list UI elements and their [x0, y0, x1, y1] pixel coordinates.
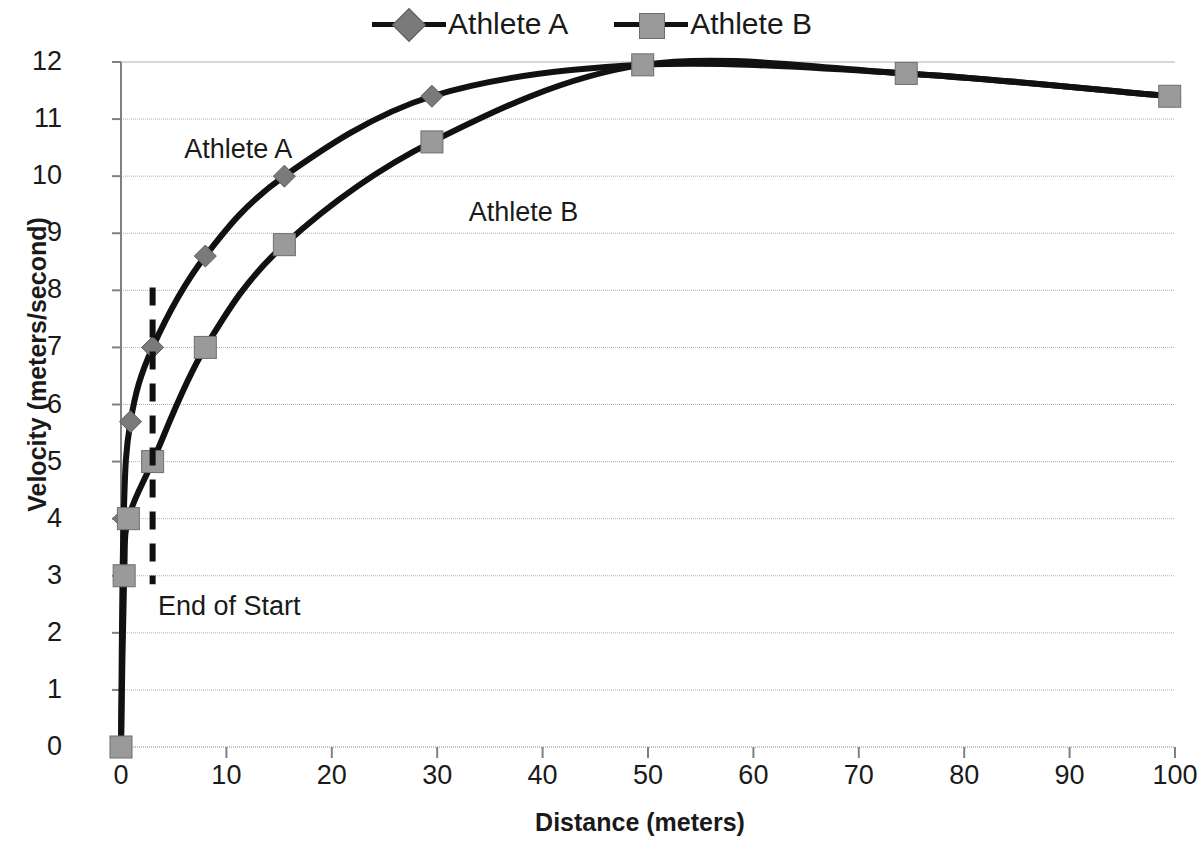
data-point-square[interactable] — [110, 736, 132, 758]
data-point-square[interactable] — [1159, 85, 1181, 107]
series-line-athlete-a — [121, 64, 1170, 747]
athlete-b-annotation: Athlete B — [469, 199, 579, 226]
data-point-diamond[interactable] — [119, 411, 141, 433]
athlete-a-annotation: Athlete A — [184, 136, 292, 163]
data-point-square[interactable] — [273, 234, 295, 256]
data-point-square[interactable] — [117, 508, 139, 530]
data-point-square[interactable] — [113, 565, 135, 587]
end-of-start-annotation: End of Start — [158, 593, 301, 620]
data-point-square[interactable] — [632, 54, 654, 76]
data-point-diamond[interactable] — [421, 85, 443, 107]
data-point-square[interactable] — [421, 131, 443, 153]
data-point-square[interactable] — [895, 62, 917, 84]
data-point-square[interactable] — [194, 336, 216, 358]
